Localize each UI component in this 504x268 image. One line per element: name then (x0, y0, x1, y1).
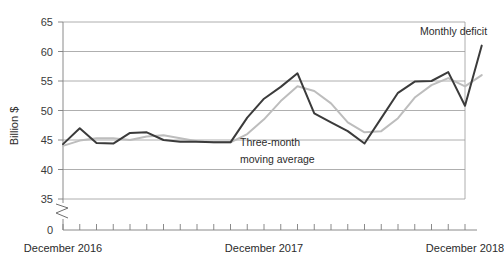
annotation-1: Three-month (240, 136, 300, 148)
y-tick-label-50: 50 (41, 105, 53, 117)
data-series (63, 46, 482, 146)
x-axis-labels: December 2016December 2017December 2018 (24, 242, 504, 254)
y-tick-label-55: 55 (41, 75, 53, 87)
x-axis-label-2: December 2018 (426, 242, 504, 254)
annotation-0: Monthly deficit (420, 25, 487, 37)
axis-break-icon (56, 204, 68, 218)
line-chart: 354045505560650 Monthly deficitThree-mon… (0, 0, 504, 268)
axis-break-zigzag (56, 204, 68, 218)
x-tick-marks (63, 224, 465, 230)
y-tick-labels: 354045505560650 (41, 16, 63, 236)
y-tick-label-65: 65 (41, 16, 53, 28)
chart-container: 354045505560650 Monthly deficitThree-mon… (0, 0, 504, 268)
y-tick-label-45: 45 (41, 134, 53, 146)
x-axis-label-1: December 2017 (225, 242, 303, 254)
y-axis-title: Billion $ (8, 107, 20, 146)
y-tick-label-40: 40 (41, 164, 53, 176)
annotation-2: moving average (240, 153, 315, 165)
y-tick-label-zero: 0 (47, 224, 53, 236)
x-axis-label-0: December 2016 (24, 242, 102, 254)
y-tick-label-60: 60 (41, 46, 53, 58)
y-tick-label-35: 35 (41, 193, 53, 205)
